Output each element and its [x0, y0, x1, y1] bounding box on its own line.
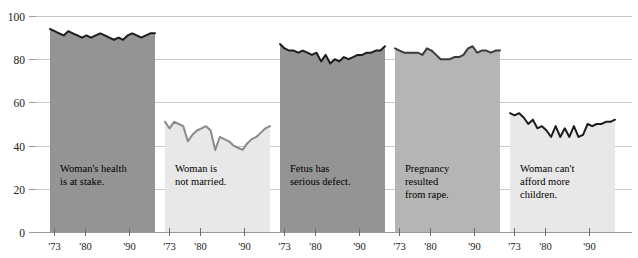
y-tick-label-40: 40 [14, 141, 26, 153]
y-tick-label-100: 100 [8, 11, 26, 23]
y-tick-label-20: 20 [14, 184, 26, 196]
x-tick-label-womans-health-'80: '80 [79, 241, 91, 252]
panel-area-womans-health [50, 29, 155, 232]
x-tick-label-cant-afford-'90: '90 [583, 241, 595, 252]
x-tick-label-serious-defect-'73: '73 [278, 241, 290, 252]
y-tick-label-0: 0 [19, 227, 25, 239]
panel-label-line: Woman's health [60, 163, 127, 174]
panel-rape: '73'80'90Pregnancyresultedfrom rape. [393, 46, 500, 252]
panel-label-line: children. [520, 189, 557, 200]
x-tick-label-not-married-'90: '90 [238, 241, 250, 252]
x-tick-label-serious-defect-'90: '90 [353, 241, 365, 252]
y-tick-label-80: 80 [14, 54, 26, 66]
x-tick-label-rape-'73: '73 [393, 241, 405, 252]
panel-label-line: not married. [175, 176, 226, 187]
panel-label-line: afford more [520, 176, 570, 187]
panel-label-line: Woman can't [520, 163, 574, 174]
x-tick-label-cant-afford-'73: '73 [508, 241, 520, 252]
panel-label-line: serious defect. [290, 176, 351, 187]
x-tick-label-not-married-'73: '73 [163, 241, 175, 252]
x-tick-label-serious-defect-'80: '80 [309, 241, 321, 252]
panel-area-rape [395, 46, 500, 232]
panel-label-line: Fetus has [290, 163, 329, 174]
panel-label-line: resulted [405, 176, 439, 187]
panel-serious-defect: '73'80'90Fetus hasserious defect. [278, 44, 385, 252]
x-tick-label-not-married-'80: '80 [194, 241, 206, 252]
y-tick-label-60: 60 [14, 97, 26, 109]
chart-canvas: 020406080100'73'80'90Woman's healthis at… [0, 0, 638, 258]
panel-label-line: Pregnancy [405, 163, 450, 174]
small-multiples-chart: 020406080100'73'80'90Woman's healthis at… [0, 0, 638, 258]
panel-label-line: Woman is [175, 163, 217, 174]
x-tick-label-cant-afford-'80: '80 [539, 241, 551, 252]
panel-womans-health: '73'80'90Woman's healthis at stake. [48, 29, 155, 252]
panel-area-serious-defect [280, 44, 385, 232]
x-tick-label-womans-health-'73: '73 [48, 241, 60, 252]
x-tick-label-rape-'90: '90 [468, 241, 480, 252]
panel-label-line: is at stake. [60, 176, 104, 187]
panel-cant-afford: '73'80'90Woman can'tafford morechildren. [508, 113, 615, 252]
x-tick-label-rape-'80: '80 [424, 241, 436, 252]
panel-label-line: from rape. [405, 189, 449, 200]
x-tick-label-womans-health-'90: '90 [123, 241, 135, 252]
